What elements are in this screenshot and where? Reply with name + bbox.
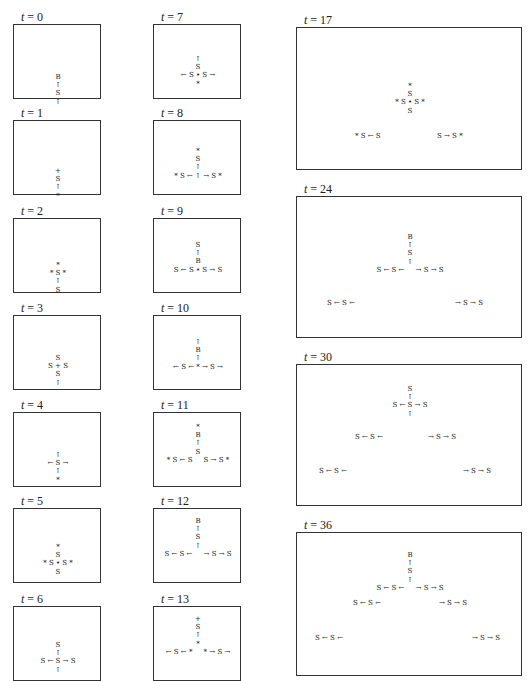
- time-value: = 7: [164, 10, 183, 24]
- left-glider: S ← S ←: [353, 600, 381, 607]
- pattern-row: B: [195, 347, 200, 354]
- state-box: ** S *↑S: [13, 218, 101, 293]
- pattern-row: B: [195, 258, 200, 265]
- pattern-row: * S ← S S → S *: [167, 456, 229, 463]
- pattern-row: *: [196, 148, 200, 155]
- pattern-row: ↑: [195, 542, 201, 549]
- state-box: *B↑S* S ← S S → S *: [153, 412, 241, 487]
- pattern-row: ↑: [55, 452, 61, 459]
- pattern-row: ← S ← * → S →: [173, 363, 223, 370]
- pattern-row: ↑: [195, 632, 201, 639]
- pattern-row: ← S • S →: [181, 72, 215, 79]
- state-box: S↑BS ← S • S → S: [153, 218, 241, 293]
- right-glider: → S → S: [472, 635, 500, 642]
- panel-time-label: t = 8: [161, 107, 183, 119]
- pattern-row: ↑: [55, 278, 61, 285]
- pattern-row: S: [196, 624, 201, 631]
- state-box: B↑S↑: [13, 24, 101, 99]
- pattern-row: S: [56, 90, 61, 97]
- pattern-row: ↑: [55, 379, 61, 386]
- panel-time-label: t = 13: [161, 593, 189, 605]
- pattern-row: S: [56, 355, 61, 362]
- pattern-row: *: [408, 83, 412, 90]
- pattern-row: ← S ← * * → S →: [166, 648, 231, 655]
- panel-time-label: t = 11: [161, 399, 189, 411]
- pattern-row: B: [407, 234, 412, 241]
- pattern-row: *: [196, 424, 200, 431]
- pattern-row: ↑: [195, 250, 201, 257]
- time-value: = 10: [164, 301, 189, 315]
- time-value: = 13: [164, 592, 189, 606]
- pattern-row: S: [408, 91, 413, 98]
- pattern-row: ↑: [407, 258, 413, 265]
- time-value: = 17: [307, 13, 332, 27]
- state-box: ↑← S →↑*: [13, 412, 101, 487]
- panel-time-label: t = 3: [21, 302, 43, 314]
- pattern-row: S ← S ← → S → S: [164, 550, 231, 557]
- pattern-row: B: [55, 74, 60, 81]
- pattern-row: * S *: [50, 270, 66, 277]
- pattern-row: ↑: [55, 82, 61, 89]
- time-value: = 1: [24, 106, 43, 120]
- left-glider: S ← S ←: [319, 468, 347, 475]
- pattern-row: ↑: [407, 242, 413, 249]
- pattern-row: ↑: [55, 184, 61, 191]
- state-box: SS + SS↑: [13, 315, 101, 390]
- panel-time-label: t = 7: [161, 11, 183, 23]
- pattern-row: *: [56, 192, 60, 199]
- state-box: ↑B↑← S ← * → S →: [153, 315, 241, 390]
- pattern-row: S: [408, 386, 413, 393]
- panel-time-label: t = 24: [304, 183, 332, 195]
- state-box: +S↑*← S ← * * → S →: [153, 606, 241, 681]
- panel-time-label: t = 4: [21, 399, 43, 411]
- pattern-row: S: [56, 371, 61, 378]
- time-value: = 5: [24, 494, 43, 508]
- pattern-row: ↑: [407, 560, 413, 567]
- time-value: = 9: [164, 204, 183, 218]
- time-value: = 8: [164, 106, 183, 120]
- panel-time-label: t = 1: [21, 107, 43, 119]
- pattern-row: ↑: [195, 164, 201, 171]
- pattern-row: ↑: [55, 468, 61, 475]
- pattern-row: S: [56, 286, 61, 293]
- pattern-row: ↑: [195, 355, 201, 362]
- pattern-row: *: [196, 80, 200, 87]
- state-box: S↑S ← S → S↑S ← S ←→ S → SS ← S ←→ S → S: [296, 364, 522, 506]
- pattern-row: S + S: [48, 363, 68, 370]
- pattern-row: S: [196, 156, 201, 163]
- panel-time-label: t = 12: [161, 495, 189, 507]
- panel-time-label: t = 6: [21, 593, 43, 605]
- right-glider: → S → S: [428, 434, 456, 441]
- pattern-row: B: [195, 432, 200, 439]
- pattern-row: S: [56, 176, 61, 183]
- left-glider: S ← S ←: [315, 635, 343, 642]
- pattern-row: ↑: [195, 56, 201, 63]
- pattern-row: *: [56, 544, 60, 551]
- pattern-row: S: [196, 448, 201, 455]
- time-value: = 11: [164, 398, 188, 412]
- panel-time-label: t = 0: [21, 11, 43, 23]
- panel-time-label: t = 2: [21, 205, 43, 217]
- right-glider: S → S *: [437, 133, 463, 140]
- time-value: = 4: [24, 398, 43, 412]
- panel-time-label: t = 5: [21, 495, 43, 507]
- pattern-row: ← S →: [48, 460, 69, 467]
- pattern-row: ↑: [195, 526, 201, 533]
- pattern-row: ↑: [55, 98, 61, 105]
- pattern-row: S: [56, 552, 61, 559]
- state-box: S↑S ← S → S↑: [13, 606, 101, 681]
- pattern-row: S: [408, 250, 413, 257]
- right-glider: → S → S: [439, 600, 467, 607]
- state-box: *S↑* S ← ↑ → S *: [153, 120, 241, 195]
- pattern-row: ↑: [407, 410, 413, 417]
- time-value: = 3: [24, 301, 43, 315]
- pattern-row: *: [56, 262, 60, 269]
- right-glider: → S → S: [455, 300, 483, 307]
- pattern-row: S ← S → S: [392, 402, 427, 409]
- pattern-row: S: [408, 568, 413, 575]
- pattern-row: S ← S ← → S → S: [376, 266, 443, 273]
- pattern-row: ↑: [407, 576, 413, 583]
- left-glider: * S ← S: [355, 133, 381, 140]
- pattern-row: * S • S *: [395, 99, 425, 106]
- panel-time-label: t = 36: [304, 519, 332, 531]
